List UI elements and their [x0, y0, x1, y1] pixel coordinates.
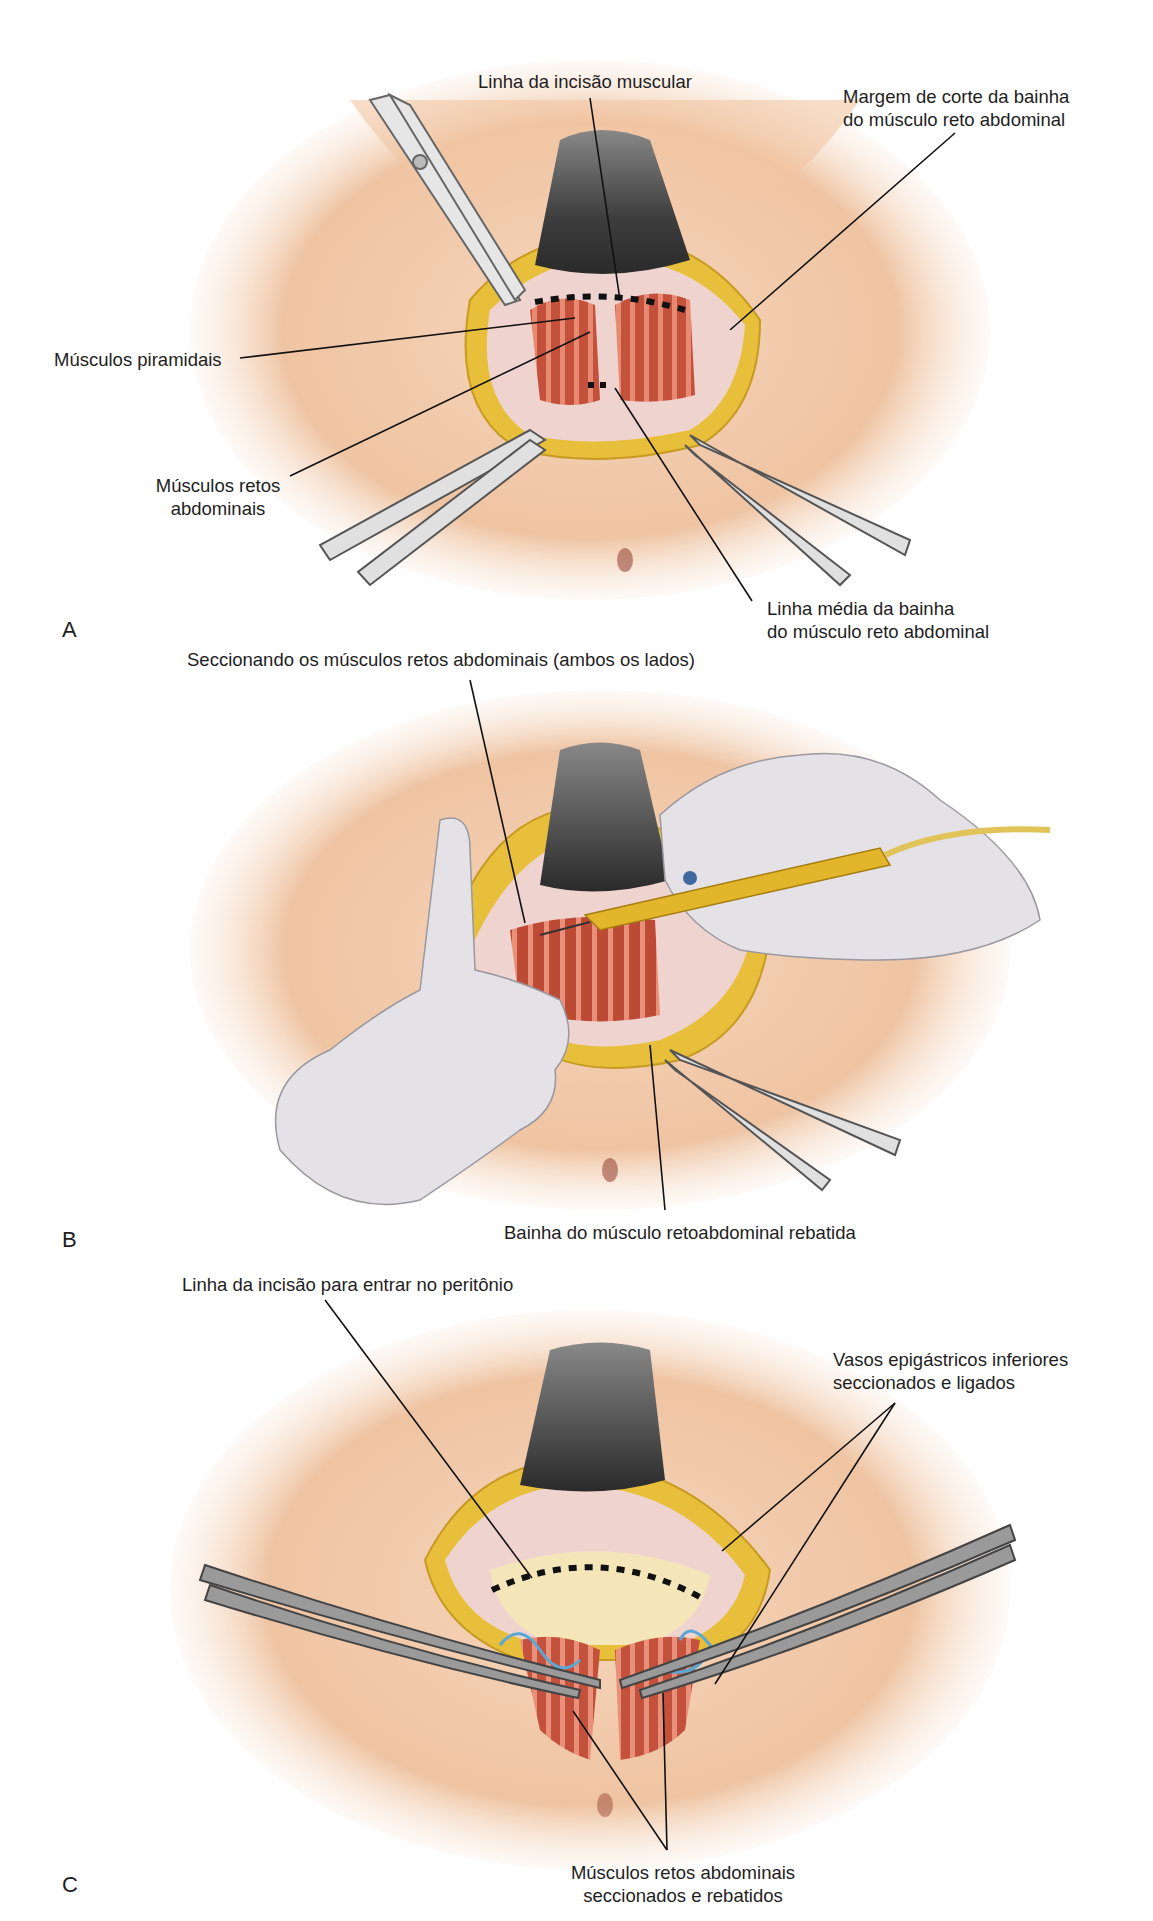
label-rectus: Músculos retos abdominais — [148, 474, 288, 520]
label-midline-line1: Linha média da bainha — [767, 597, 989, 620]
umbilicus — [597, 1793, 613, 1817]
label-midline: Linha média da bainha do músculo reto ab… — [767, 597, 989, 643]
label-rectus-line1: Músculos retos — [148, 474, 288, 497]
rectus-muscle-left — [530, 299, 600, 405]
umbilicus — [602, 1158, 618, 1182]
panel-b-illustration — [0, 640, 1153, 1260]
label-epigastric-vessels: Vasos epigástricos inferiores seccionado… — [833, 1348, 1068, 1394]
panel-letter-c: C — [62, 1872, 78, 1898]
label-peritoneum-incision: Linha da incisão para entrar no peritôni… — [182, 1273, 513, 1296]
label-sheath-margin-line2: do músculo reto abdominal — [843, 108, 1069, 131]
label-sheath-reflected: Bainha do músculo retoabdominal rebatida — [504, 1221, 856, 1244]
label-rectus-cut: Músculos retos abdominais seccionados e … — [548, 1861, 818, 1907]
label-epigastric-vessels-line2: seccionados e ligados — [833, 1371, 1068, 1394]
label-sectioning: Seccionando os músculos retos abdominais… — [187, 648, 695, 671]
label-rectus-line2: abdominais — [148, 497, 288, 520]
label-epigastric-vessels-line1: Vasos epigástricos inferiores — [833, 1348, 1068, 1371]
panel-letter-b: B — [62, 1227, 77, 1253]
label-sheath-margin: Margem de corte da bainha do músculo ret… — [843, 85, 1069, 131]
panel-a: Linha da incisão muscular Margem de cort… — [0, 0, 1153, 640]
label-pyramidalis: Músculos piramidais — [54, 348, 222, 371]
umbilicus — [617, 548, 633, 572]
label-rectus-cut-line2: seccionados e rebatidos — [548, 1884, 818, 1907]
panel-b: Seccionando os músculos retos abdominais… — [0, 640, 1153, 1260]
label-rectus-cut-line1: Músculos retos abdominais — [548, 1861, 818, 1884]
label-incision-line: Linha da incisão muscular — [478, 70, 692, 93]
panel-c: Linha da incisão para entrar no peritôni… — [0, 1260, 1153, 1921]
label-sheath-margin-line1: Margem de corte da bainha — [843, 85, 1069, 108]
